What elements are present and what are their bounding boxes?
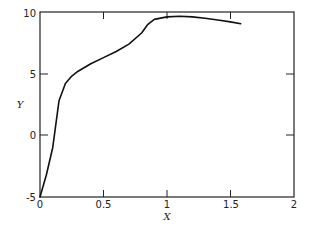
x-tick-label: 1.5 bbox=[223, 199, 239, 210]
x-tick-label: 1 bbox=[164, 199, 170, 210]
x-axis-label: X bbox=[162, 211, 171, 222]
y-tick-label: -5 bbox=[26, 192, 36, 203]
x-tick-label: 0 bbox=[37, 199, 43, 210]
x-tick-label: 2 bbox=[291, 199, 297, 210]
x-tick-label: 0.5 bbox=[96, 199, 112, 210]
y-axis-label: Y bbox=[17, 99, 25, 110]
x-ticks bbox=[104, 12, 231, 197]
y-tick-label: 5 bbox=[30, 69, 36, 80]
y-ticks bbox=[40, 74, 294, 135]
y-tick-label: 0 bbox=[30, 130, 36, 141]
data-line bbox=[40, 16, 241, 197]
plot-frame bbox=[40, 12, 294, 197]
chart: 0 0.5 1 1.5 2 -5 0 5 10 X Y bbox=[0, 0, 312, 229]
y-tick-label: 10 bbox=[23, 8, 36, 19]
